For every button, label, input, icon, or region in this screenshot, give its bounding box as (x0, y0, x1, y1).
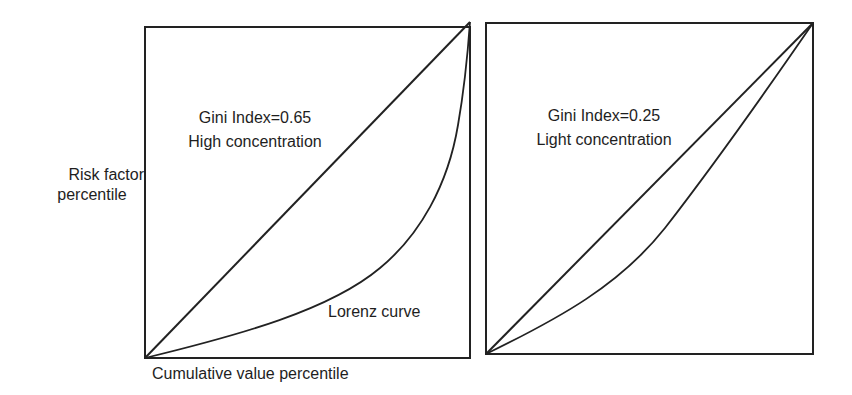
right-annotation: Gini Index=0.25 Light concentration (518, 106, 690, 150)
right-concentration-text: Light concentration (518, 130, 690, 150)
right-panel (486, 23, 813, 354)
left-panel (145, 22, 470, 358)
left-annotation: Gini Index=0.65 High concentration (170, 108, 340, 152)
right-equality-line (486, 23, 813, 354)
y-axis-label-line2: percentile (20, 185, 144, 205)
left-gini-text: Gini Index=0.65 (170, 108, 340, 128)
y-axis-label-line1: Risk factor (20, 165, 144, 185)
y-axis-label: Risk factor percentile (20, 165, 144, 205)
right-gini-text: Gini Index=0.25 (518, 106, 690, 126)
left-equality-line (145, 22, 470, 358)
lorenz-curve-label: Lorenz curve (328, 302, 421, 322)
x-axis-label: Cumulative value percentile (152, 364, 349, 384)
left-concentration-text: High concentration (170, 132, 340, 152)
